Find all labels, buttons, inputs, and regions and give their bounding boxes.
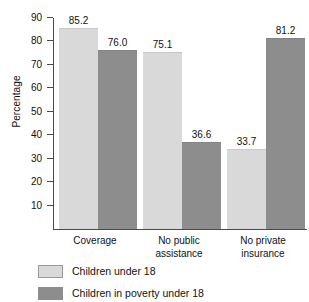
bar-value-label: 85.2	[54, 15, 103, 27]
y-tick-label: 70	[14, 58, 42, 71]
x-category-label-line: insurance	[213, 247, 309, 260]
y-tick-label: 40	[14, 128, 42, 141]
legend-label: Children under 18	[72, 265, 155, 278]
bar-value-label: 36.6	[177, 129, 226, 141]
y-tick-label: 90	[14, 11, 42, 24]
y-tick-label: 20	[14, 175, 42, 188]
plot-area: 85.276.075.136.633.781.2	[53, 18, 305, 229]
x-category-label-3: No privateinsurance	[213, 234, 309, 260]
bar-children-in-poverty-under-18-2[interactable]	[182, 142, 221, 229]
bar-value-label: 81.2	[261, 25, 309, 37]
x-category-label-line: No private	[213, 234, 309, 247]
bar-children-under-18-3[interactable]	[227, 149, 266, 229]
y-tick-label: 10	[14, 199, 42, 212]
legend-item-2[interactable]: Children in poverty under 18	[38, 283, 303, 302]
legend-label: Children in poverty under 18	[72, 287, 204, 300]
legend-swatch-dark	[38, 287, 63, 300]
bar-value-label: 76.0	[93, 37, 142, 49]
legend-swatch-light	[38, 265, 63, 278]
bar-children-in-poverty-under-18-1[interactable]	[98, 50, 137, 229]
x-axis-line	[53, 229, 307, 230]
y-tick-label: 60	[14, 81, 42, 94]
bar-children-under-18-1[interactable]	[59, 28, 98, 229]
bar-value-label: 75.1	[138, 39, 187, 51]
bar-children-in-poverty-under-18-3[interactable]	[266, 38, 305, 229]
y-tick-label: 50	[14, 105, 42, 118]
bar-value-label: 33.7	[222, 136, 271, 148]
y-tick-label: 80	[14, 34, 42, 47]
legend-item-1[interactable]: Children under 18	[38, 261, 303, 281]
y-tick-label: 30	[14, 152, 42, 165]
bar-chart: Percentage 908070605040302010 85.276.075…	[0, 0, 309, 302]
chart-legend: Children under 18Children in poverty und…	[38, 261, 303, 302]
